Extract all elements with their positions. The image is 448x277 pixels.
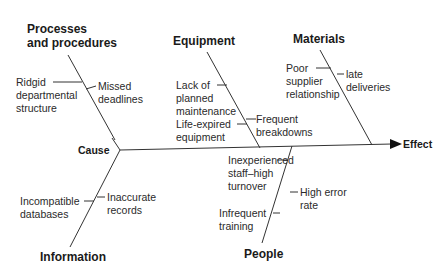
cause-vertex-upper	[112, 138, 120, 150]
effect-arrow-icon	[390, 139, 402, 149]
cause-missed-deadlines: Missed deadlines	[98, 80, 143, 106]
heading-information: Information	[40, 250, 106, 264]
cause-lack-maintenance: Lack of planned maintenance	[176, 79, 236, 118]
cause-frequent-breakdowns: Frequent breakdowns	[256, 113, 313, 139]
spine-line	[120, 144, 392, 150]
tick-missed	[86, 86, 96, 89]
heading-people: People	[244, 247, 283, 261]
cause-poor-supplier: Poor supplier relationship	[286, 62, 340, 101]
heading-processes: Processes and procedures	[27, 22, 117, 50]
effect-label: Effect	[403, 138, 432, 151]
cause-inexperienced-staff: Inexperienced staff–high turnover	[228, 154, 294, 193]
cause-incompatible-databases: Incompatible databases	[20, 195, 80, 221]
heading-processes-line1: Processes	[27, 22, 87, 36]
cause-label: Cause	[78, 144, 110, 157]
cause-ridgid-structure: Ridgid departmental structure	[16, 76, 77, 115]
cause-high-error-rate: High error rate	[300, 186, 347, 212]
cause-late-deliveries: late deliveries	[346, 68, 390, 94]
cause-life-expired: Life-expired equipment	[176, 118, 231, 144]
heading-materials: Materials	[293, 32, 345, 46]
cause-infrequent-training: Infrequent training	[219, 207, 266, 233]
heading-equipment: Equipment	[173, 34, 235, 48]
cause-inaccurate-records: Inaccurate records	[107, 191, 156, 217]
heading-processes-line2: and procedures	[27, 36, 117, 50]
